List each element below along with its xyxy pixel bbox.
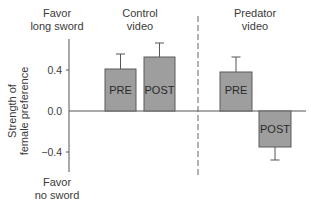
y-tick-label-0.4: 0.4 <box>47 64 62 76</box>
y-axis-title-line2: female preference <box>18 67 30 156</box>
y-axis-title: Strength of female preference <box>6 67 30 156</box>
bar-predator-pre: PRE <box>220 57 252 111</box>
bar-label-control-pre: PRE <box>109 84 132 96</box>
bar-label-control-post: POST <box>145 84 175 96</box>
bar-label-predator-post: POST <box>260 123 290 135</box>
chart-canvas: Favor long sword Control video Predator … <box>0 0 311 203</box>
annotation-favor-long-sword-line2: long sword <box>30 20 83 32</box>
bar-control-post: POST <box>144 43 175 111</box>
y-tick-label-0.0: 0.0 <box>47 105 62 117</box>
annotation-favor-no-sword-line1: Favor <box>43 176 71 188</box>
y-axis-title-line1: Strength of <box>6 83 18 138</box>
y-tick-label-minus-0.4: −0.4 <box>41 146 62 158</box>
group-label-control-line2: video <box>127 20 153 32</box>
annotation-favor-long-sword-line1: Favor <box>43 7 71 19</box>
bar-label-predator-pre: PRE <box>225 84 248 96</box>
bar-predator-post: POST <box>259 111 291 160</box>
annotation-favor-no-sword-line2: no sword <box>35 189 80 201</box>
group-label-control-line1: Control <box>122 7 157 19</box>
bar-control-pre: PRE <box>105 54 136 111</box>
group-label-predator-line2: video <box>242 20 268 32</box>
group-label-predator-line1: Predator <box>234 7 277 19</box>
